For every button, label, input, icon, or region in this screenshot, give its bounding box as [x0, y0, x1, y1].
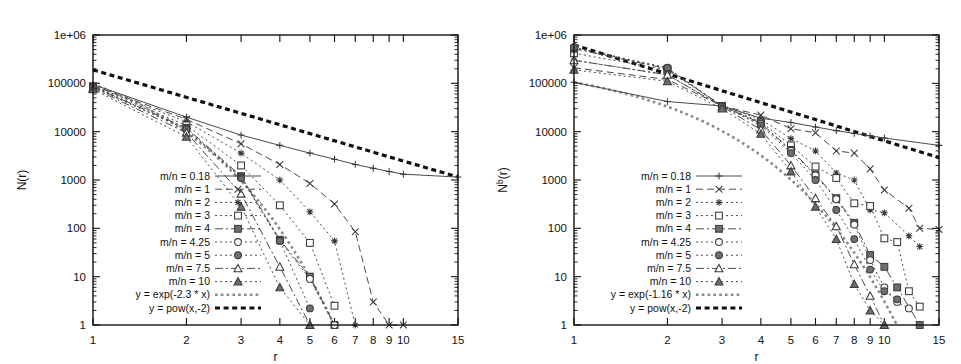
marker-cross — [881, 187, 888, 194]
marker-filled-square — [235, 225, 242, 232]
x-tick-label: 2 — [183, 334, 189, 346]
reference-lines — [93, 70, 458, 324]
reference-lines — [574, 45, 939, 324]
marker-open-circle — [235, 239, 242, 246]
marker-open-square — [881, 235, 888, 242]
marker-open-square — [238, 162, 245, 169]
marker-cross — [788, 125, 795, 132]
marker-asterisk — [307, 208, 314, 215]
legend-label: m/n = 7.5 — [166, 262, 210, 274]
marker-plus — [238, 132, 245, 139]
series-2 — [571, 57, 924, 250]
chart-svg-right: 1101001000100001000001e+061234567891015r… — [481, 0, 961, 364]
x-axis-title: r — [274, 350, 278, 364]
marker-asterisk — [881, 209, 888, 216]
series-1 — [571, 64, 943, 232]
legend-label: y = pow(x,-2) — [149, 302, 210, 314]
x-tick-label: 10 — [878, 334, 891, 346]
legend-label: m/n = 3 — [175, 209, 210, 221]
plot-frame — [93, 35, 458, 325]
legend-label: m/n = 4 — [175, 222, 210, 234]
marker-open-square — [307, 239, 314, 246]
marker-filled-square — [716, 225, 723, 232]
marker-open-square — [812, 163, 819, 170]
series-5 — [571, 45, 913, 312]
marker-open-triangle — [850, 260, 858, 267]
marker-filled-circle — [307, 305, 314, 312]
marker-plus — [664, 98, 671, 105]
series-4 — [571, 45, 924, 328]
marker-open-square — [894, 239, 901, 246]
y-tick-label: 1000 — [541, 174, 567, 186]
chart-panel-right: 1101001000100001000001e+061234567891015r… — [481, 0, 961, 364]
series-0 — [90, 81, 462, 180]
marker-open-square — [916, 303, 923, 310]
x-tick-label: 9 — [386, 334, 392, 346]
x-tick-label: 1 — [571, 334, 577, 346]
legend-label: m/n = 2 — [175, 196, 210, 208]
x-tick-label: 9 — [867, 334, 873, 346]
reference-line-pow — [93, 70, 458, 177]
marker-open-square — [716, 212, 723, 219]
marker-filled-circle — [867, 266, 874, 273]
series-6 — [571, 44, 901, 303]
marker-open-circle — [307, 275, 314, 282]
marker-filled-triangle — [866, 306, 874, 313]
legend-label: m/n = 0.18 — [160, 170, 210, 182]
marker-asterisk — [235, 199, 242, 206]
marker-filled-circle — [276, 237, 283, 244]
legend-label: m/n = 4 — [656, 222, 691, 234]
y-tick-label: 1e+06 — [535, 29, 567, 41]
y-tick-label: 1000 — [60, 174, 86, 186]
marker-open-square — [235, 212, 242, 219]
legend-label: m/n = 10 — [650, 275, 691, 287]
legend-label: y = exp(-2.3 * x) — [136, 288, 210, 300]
x-tick-label: 3 — [238, 334, 244, 346]
marker-filled-circle — [788, 150, 795, 157]
figure-two-panel-loglog: 1101001000100001000001e+061234567891015r… — [0, 0, 961, 364]
series-3 — [90, 83, 338, 309]
x-tick-label: 4 — [277, 334, 284, 346]
data-series-group — [570, 44, 942, 329]
svg-text:N(r): N(r) — [15, 170, 29, 191]
x-tick-label: 8 — [370, 334, 376, 346]
x-tick-label: 8 — [851, 334, 857, 346]
marker-filled-triangle — [276, 283, 284, 290]
legend-label: m/n = 7.5 — [647, 262, 691, 274]
legend-label: m/n = 1 — [656, 183, 691, 195]
y-axis-title: N(r) — [15, 170, 29, 191]
y-tick-label: 100 — [548, 222, 567, 234]
y-tick-label: 100 — [67, 222, 86, 234]
x-tick-label: 6 — [812, 334, 818, 346]
legend-label: y = exp(-1.16 * x) — [611, 288, 691, 300]
legend-label: m/n = 1 — [175, 183, 210, 195]
legend-label: m/n = 2 — [656, 196, 691, 208]
x-tick-label: 10 — [397, 334, 410, 346]
y-tick-label: 10000 — [54, 126, 86, 138]
y-tick-label: 1 — [561, 319, 567, 331]
plot-frame — [574, 35, 939, 325]
marker-open-square — [851, 200, 858, 207]
marker-filled-circle — [881, 288, 888, 295]
marker-open-circle — [716, 239, 723, 246]
marker-asterisk — [716, 199, 723, 206]
x-tick-label: 15 — [933, 334, 946, 346]
marker-open-square — [276, 202, 283, 209]
marker-open-circle — [906, 305, 913, 312]
marker-open-square — [867, 203, 874, 210]
marker-cross — [238, 140, 245, 147]
x-axis-title: r — [755, 350, 759, 364]
marker-open-circle — [867, 257, 874, 264]
chart-svg-left: 1101001000100001000001e+061234567891015r… — [0, 0, 480, 364]
series-5 — [90, 84, 338, 329]
x-tick-label: 7 — [833, 334, 839, 346]
marker-filled-square — [881, 263, 888, 270]
marker-filled-circle — [833, 207, 840, 214]
marker-plus — [331, 156, 338, 163]
marker-plus — [716, 173, 723, 180]
y-tick-label: 100000 — [529, 77, 567, 89]
y-axis-title: Nb(r) — [495, 167, 510, 192]
x-tick-label: 5 — [788, 334, 794, 346]
marker-asterisk — [851, 177, 858, 184]
legend: m/n = 0.18m/n = 1m/n = 2m/n = 3m/n = 4m/… — [611, 170, 742, 314]
